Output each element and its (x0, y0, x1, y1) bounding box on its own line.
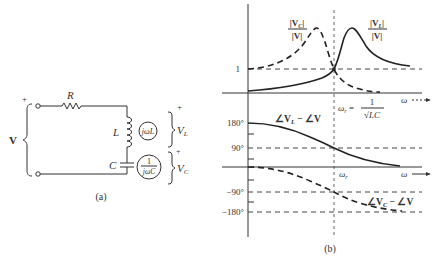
vl-brace (168, 112, 175, 147)
magnitude-omega-label: ω (401, 95, 407, 105)
source-brace (23, 104, 32, 176)
vc-brace (168, 152, 175, 184)
inductor-symbol (127, 117, 132, 163)
phase-omega-arrow-icon (426, 172, 431, 176)
vc-magnitude-denominator: |V| (292, 31, 302, 41)
vc-label: VC (177, 162, 189, 176)
vl-label: VL (177, 124, 188, 138)
phase-omega-r-label: ωr (339, 169, 348, 180)
vc-magnitude-numerator: |VC| (290, 18, 305, 29)
terminal-top (36, 104, 40, 108)
terminal-bottom (36, 172, 40, 176)
source-plus-sign: + (22, 94, 27, 104)
inductor-label: L (112, 126, 119, 138)
vc-phase-label: ∠VC − ∠V (367, 197, 413, 208)
unity-tick-label: 1 (236, 64, 241, 74)
resistor-wire (40, 103, 127, 117)
vl-phase-curve (248, 123, 400, 166)
vl-magnitude-curve (248, 28, 410, 91)
magnitude-omega-arrow-icon (426, 98, 431, 102)
resonance-omega-label: ωr = (338, 103, 354, 114)
tick-label-minus90: −90° (226, 187, 244, 197)
capacitor-impedance-numerator: 1 (147, 157, 151, 166)
crossing-point (332, 67, 336, 71)
plots-caption: (b) (324, 243, 336, 255)
phase-omega-label: ω (401, 169, 407, 179)
circuit-caption: (a) (95, 191, 106, 203)
tick-label-90: 90° (231, 143, 244, 153)
inductor-impedance-text: jωL (141, 127, 155, 136)
resonance-numerator: 1 (370, 97, 375, 107)
vl-magnitude-numerator: |VL| (370, 18, 384, 29)
resistor-label: R (66, 89, 74, 101)
frequency-response-plots: 1 |VC| |V| |VL| |V| ω ωr = 1 √LC 180° 90… (222, 4, 431, 255)
resonance-denominator: √LC (364, 110, 381, 120)
capacitor-impedance-denominator: jωC (142, 167, 156, 176)
vl-magnitude-denominator: |V| (372, 31, 382, 41)
vc-plus-sign: + (176, 147, 181, 156)
vl-plus-sign: + (177, 102, 182, 112)
vl-phase-label: ∠VL − ∠V (275, 114, 321, 125)
tick-label-minus180: −180° (222, 207, 245, 217)
capacitor-label: C (109, 159, 117, 171)
source-voltage-label: V (9, 134, 17, 146)
circuit-diagram: + V R L C jωL 1 jωC + VL + VC (a) (9, 89, 189, 203)
figure-canvas: + V R L C jωL 1 jωC + VL + VC (a) 1 (0, 0, 445, 265)
tick-label-180: 180° (227, 118, 245, 128)
